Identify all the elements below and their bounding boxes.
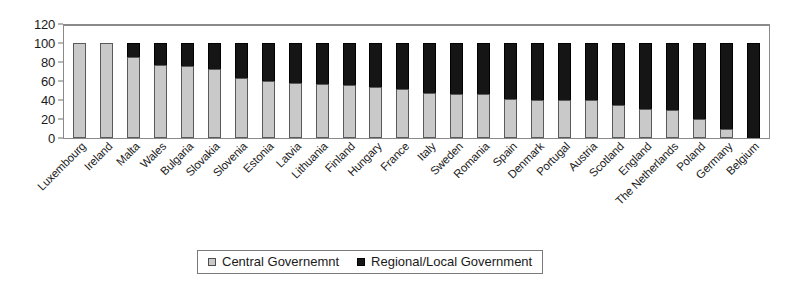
bar-column <box>154 24 167 138</box>
x-axis-label-cell: Germany <box>720 140 733 235</box>
bar-column <box>208 24 221 138</box>
bar-segment-regional <box>558 43 571 100</box>
bar-column <box>235 24 248 138</box>
x-axis-label-cell: Ireland <box>100 140 113 235</box>
bar-segment-central <box>666 110 679 139</box>
bar-column <box>396 24 409 138</box>
x-axis-label-cell: Estonia <box>262 140 275 235</box>
bar-segment-central <box>396 89 409 138</box>
bar-column <box>73 24 86 138</box>
x-axis-label-cell: Luxembourg <box>73 140 86 235</box>
x-axis-label-cell: Lithuania <box>316 140 329 235</box>
legend-label-regional: Regional/Local Government <box>371 254 532 269</box>
bar-column <box>558 24 571 138</box>
bar-column <box>585 24 598 138</box>
bar-segment-regional <box>504 43 517 99</box>
bar-segment-central <box>477 94 490 138</box>
bar-column <box>289 24 302 138</box>
y-axis-tick-label: 100 <box>34 37 55 50</box>
bar-segment-regional <box>450 43 463 94</box>
x-axis-label-cell: The Netherlands <box>666 140 679 235</box>
y-axis-tick-label: 120 <box>34 18 55 31</box>
x-axis-label-cell: France <box>396 140 409 235</box>
x-axis-label-cell: Malta <box>127 140 140 235</box>
bar-segment-regional <box>720 43 733 129</box>
bar-segment-regional <box>423 43 436 93</box>
bar-segment-central <box>720 129 733 138</box>
bar-column <box>639 24 652 138</box>
bar-segment-central <box>639 109 652 138</box>
bar-segment-regional <box>531 43 544 100</box>
x-axis-label-cell: Wales <box>154 140 167 235</box>
x-axis-label-cell: Denmark <box>531 140 544 235</box>
x-axis-label-cell: Spain <box>504 140 517 235</box>
x-axis-label-cell: Slovenia <box>235 140 248 235</box>
bar-segment-regional <box>262 43 275 81</box>
x-axis-label-cell: Romania <box>477 140 490 235</box>
bar-segment-regional <box>693 43 706 119</box>
y-axis: 020406080100120 <box>0 24 63 139</box>
bar-segment-regional <box>639 43 652 109</box>
bar-segment-regional <box>477 43 490 94</box>
bar-segment-central <box>127 57 140 138</box>
bar-segment-central <box>450 94 463 138</box>
bar-segment-central <box>235 78 248 138</box>
bar-segment-central <box>100 43 113 138</box>
central-swatch-icon <box>208 258 216 266</box>
x-axis-label-cell: Bulgaria <box>181 140 194 235</box>
x-axis-label: Ireland <box>82 140 115 173</box>
bar-segment-central <box>423 93 436 138</box>
x-axis-label-cell: Finland <box>343 140 356 235</box>
bar-segment-central <box>369 87 382 138</box>
bar-segment-regional <box>396 43 409 89</box>
bar-segment-central <box>693 119 706 138</box>
y-axis-tick-label: 60 <box>41 75 55 88</box>
regional-swatch-icon <box>357 258 365 266</box>
bar-segment-regional <box>612 43 625 105</box>
y-axis-tick-label: 40 <box>41 94 55 107</box>
bar-segment-central <box>181 66 194 138</box>
bar-segment-central <box>504 99 517 138</box>
bar-segment-central <box>316 84 329 138</box>
x-axis-label: Luxembourg <box>35 140 88 193</box>
bar-column <box>450 24 463 138</box>
bar-segment-regional <box>666 43 679 110</box>
bar-column <box>262 24 275 138</box>
x-axis-label-cell: Slovakia <box>208 140 221 235</box>
x-axis-label: France <box>378 140 412 174</box>
bar-column <box>504 24 517 138</box>
bar-segment-central <box>612 105 625 138</box>
x-axis-label-cell: Italy <box>423 140 436 235</box>
bar-segment-regional <box>747 43 760 138</box>
bar-column <box>316 24 329 138</box>
bar-column <box>477 24 490 138</box>
bar-column <box>747 24 760 138</box>
bar-segment-central <box>289 83 302 138</box>
bar-column <box>343 24 356 138</box>
bar-segment-regional <box>343 43 356 85</box>
x-axis-labels: LuxembourgIrelandMaltaWalesBulgariaSlova… <box>63 140 770 235</box>
x-axis-label-cell: Hungary <box>369 140 382 235</box>
bar-segment-regional <box>585 43 598 100</box>
bar-segment-regional <box>127 43 140 57</box>
bars-layer <box>63 24 770 138</box>
x-axis-label-cell: Sweden <box>450 140 463 235</box>
y-axis-tick-label: 80 <box>41 56 55 69</box>
chart-legend: Central Governemnt Regional/Local Govern… <box>197 250 543 274</box>
bar-segment-central <box>208 69 221 138</box>
bar-column <box>100 24 113 138</box>
bar-segment-regional <box>369 43 382 87</box>
bar-segment-central <box>73 43 86 138</box>
y-axis-tick-label: 20 <box>41 113 55 126</box>
bar-segment-regional <box>289 43 302 83</box>
bar-segment-regional <box>154 43 167 65</box>
legend-item-central: Central Governemnt <box>208 254 339 269</box>
bar-segment-central <box>585 100 598 138</box>
bar-segment-central <box>262 81 275 138</box>
bar-segment-regional <box>235 43 248 78</box>
x-axis-label-cell: Latvia <box>289 140 302 235</box>
bar-segment-central <box>154 65 167 138</box>
bar-column <box>666 24 679 138</box>
bar-segment-central <box>343 85 356 138</box>
bar-column <box>531 24 544 138</box>
